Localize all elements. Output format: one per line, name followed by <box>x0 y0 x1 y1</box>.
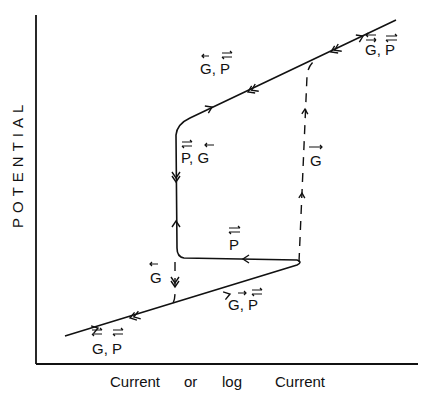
label-lower-mid: G, P <box>228 288 262 313</box>
arrow-upper-right-backward-double-icon <box>329 44 341 56</box>
svg-text:G, P: G, P <box>92 340 122 357</box>
label-horizontal: P <box>229 226 240 253</box>
x-axis-title-or: or <box>184 373 197 390</box>
lower-branch-curve <box>65 20 396 336</box>
label-dashed-left: G <box>150 262 162 286</box>
svg-text:G: G <box>310 152 322 169</box>
svg-text:P: P <box>229 236 239 253</box>
label-lower-left: G, P <box>92 328 123 357</box>
label-left-knee: P, G <box>181 140 214 166</box>
label-upper-right: G, P <box>365 33 397 58</box>
svg-text:G, P: G, P <box>228 296 258 313</box>
svg-text:G, P: G, P <box>200 60 230 77</box>
y-axis-title: POTENTIAL <box>9 100 26 228</box>
svg-text:G: G <box>150 269 162 286</box>
x-axis-title-current2: Current <box>275 373 326 390</box>
svg-text:G, P: G, P <box>365 41 395 58</box>
x-axis-title-log: log <box>222 373 242 390</box>
label-dashed-right: G <box>309 145 322 169</box>
label-upper-mid: G, P <box>200 51 232 77</box>
polarization-diagram: POTENTIAL Current or log Current <box>0 0 429 406</box>
x-axis-title-current: Current <box>110 373 161 390</box>
svg-text:P, G: P, G <box>181 149 209 166</box>
